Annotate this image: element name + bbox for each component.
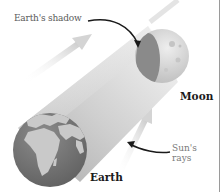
frame-border (219, 0, 220, 192)
sun-ray-arrow-upper (24, 34, 92, 82)
earths-shadow-label: Earth's shadow (14, 14, 81, 23)
earth-label: Earth (90, 172, 123, 183)
sun-ray-arrow-top (150, 0, 178, 22)
moon-label: Moon (180, 91, 213, 102)
suns-rays-label: Sun's rays (172, 143, 202, 163)
